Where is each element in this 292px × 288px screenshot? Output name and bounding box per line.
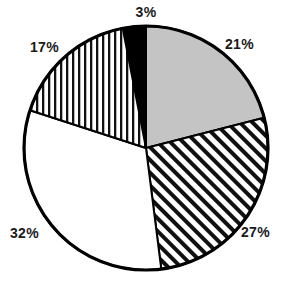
pie-chart: 3% 21% 27% 32% 17% — [0, 0, 292, 288]
slice-label-32: 32% — [10, 225, 56, 241]
slice-label-17: 17% — [30, 39, 76, 55]
slice-label-3: 3% — [120, 4, 172, 20]
slice-label-27: 27% — [241, 224, 287, 240]
slice-label-21: 21% — [225, 36, 271, 52]
